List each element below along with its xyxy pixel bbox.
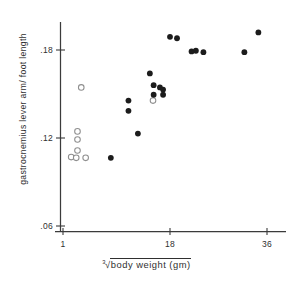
open-circle-points <box>68 85 155 161</box>
data-point <box>193 48 199 54</box>
data-point <box>151 92 157 98</box>
y-tick-label: .06 <box>20 221 53 231</box>
x-tick-label: 18 <box>150 239 190 249</box>
data-point <box>83 155 89 161</box>
data-point <box>108 155 114 161</box>
filled-circle-points <box>108 30 261 161</box>
x-tick-label: 1 <box>43 239 83 249</box>
cube-root-icon: 3√ <box>101 259 110 270</box>
data-point <box>135 131 141 137</box>
data-point <box>126 98 132 104</box>
axes-group <box>55 22 286 232</box>
data-point <box>126 108 132 114</box>
data-point <box>160 87 166 93</box>
data-point <box>75 137 81 143</box>
data-point <box>150 98 156 104</box>
data-point <box>160 92 166 98</box>
x-tick-label: 36 <box>247 239 287 249</box>
data-point <box>167 34 173 40</box>
data-point <box>174 35 180 41</box>
data-point <box>151 82 157 88</box>
data-point <box>241 49 247 55</box>
data-point <box>255 30 261 36</box>
y-axis-title: gastrocnemius lever arm/ foot length <box>18 19 28 199</box>
radical-index: 3 <box>102 259 106 265</box>
data-point <box>75 148 81 154</box>
data-point <box>73 155 79 161</box>
radicand-text: body weight (gm) <box>110 258 191 270</box>
data-point <box>75 129 81 135</box>
data-point <box>201 49 207 55</box>
data-point <box>147 71 153 77</box>
x-axis-title: 3√body weight (gm) <box>0 258 292 270</box>
data-point <box>78 85 84 91</box>
scatter-plot-figure: .06.12.18 11836 gastrocnemius lever arm/… <box>0 0 292 283</box>
